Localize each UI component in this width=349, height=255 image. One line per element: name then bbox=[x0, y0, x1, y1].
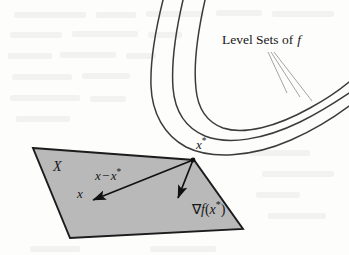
difference-vector-label-lhs: x bbox=[95, 168, 101, 183]
feasible-set-polygon bbox=[33, 148, 243, 238]
level-sets-label: Level Sets off bbox=[222, 33, 301, 47]
feasible-set-label: X bbox=[53, 160, 62, 174]
optimal-point-marker bbox=[191, 158, 196, 163]
nabla-icon: ∇ bbox=[192, 202, 201, 217]
level-set-curve-inner bbox=[195, 0, 349, 131]
difference-vector-label-rhs-superscript: * bbox=[117, 167, 122, 177]
point-x-label: x bbox=[77, 187, 83, 200]
level-set-curve-group bbox=[151, 0, 349, 155]
gradient-label: ∇f(x*) bbox=[192, 200, 226, 217]
difference-vector-label: x−x* bbox=[95, 168, 121, 182]
figure-canvas: Level Sets off x* X x−x* x ∇f(x*) bbox=[0, 0, 349, 255]
difference-vector-label-operator: − bbox=[101, 168, 111, 183]
gradient-label-close-paren: ) bbox=[221, 202, 226, 217]
level-sets-label-function: f bbox=[297, 32, 301, 47]
level-set-leader-line-group bbox=[268, 52, 312, 101]
level-sets-label-prefix: Level Sets of bbox=[222, 32, 293, 47]
point-x-label-text: x bbox=[77, 186, 83, 201]
optimal-point-label-superscript: * bbox=[202, 136, 207, 146]
feasible-set-label-text: X bbox=[53, 159, 62, 174]
optimal-point-label: x* bbox=[196, 137, 206, 151]
level-set-curve-outer bbox=[151, 0, 349, 155]
level-set-curve-middle bbox=[173, 0, 349, 140]
